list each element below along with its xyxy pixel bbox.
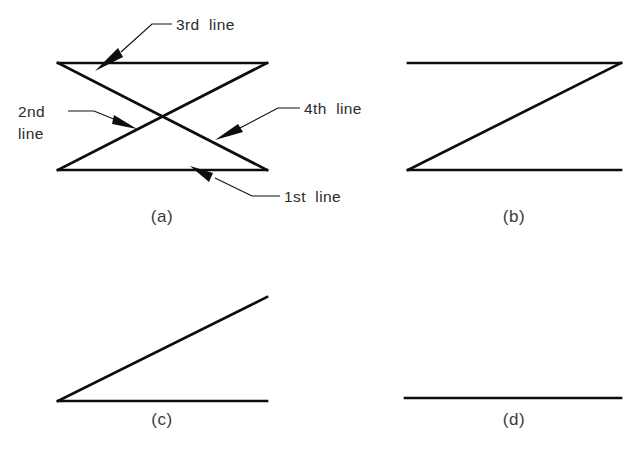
label-4th-line: 4th line [304,100,362,117]
line-order-diagram: 3rd line 2nd line 4th line 1st line [0,0,635,455]
label-2nd-line-bottom: line [18,125,44,142]
caption-panel-c: (c) [151,410,172,429]
caption-panel-d: (d) [503,410,525,429]
figure-root: 3rd line 2nd line 4th line 1st line [0,0,635,455]
label-2nd-line-top: 2nd [18,103,45,120]
caption-panel-a: (a) [151,207,173,226]
label-1st-line: 1st line [284,188,341,205]
diagram-background [0,0,635,455]
caption-panel-b: (b) [503,207,525,226]
label-3rd-line: 3rd line [176,16,235,33]
